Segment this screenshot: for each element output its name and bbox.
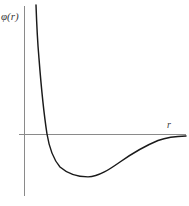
y-axis-label: φ(r) — [1, 10, 19, 23]
x-axis-label: r — [167, 119, 171, 130]
pair-potential-chart: φ(r) r — [0, 0, 189, 206]
plot-figure: φ(r) r — [0, 0, 189, 206]
plot-background — [0, 0, 189, 206]
